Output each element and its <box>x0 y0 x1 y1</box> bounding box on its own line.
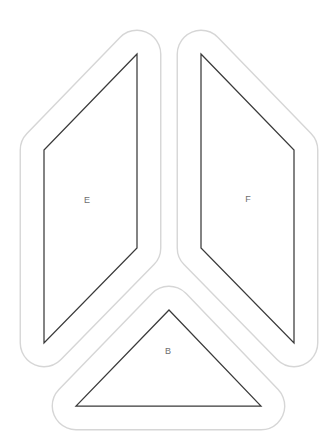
pattern-drawing: EFB <box>0 0 335 444</box>
piece-label-E: E <box>84 195 90 205</box>
pattern-sheet: EFB <box>0 0 335 444</box>
piece-B: B <box>76 310 261 406</box>
piece-label-B: B <box>165 346 171 356</box>
piece-label-F: F <box>245 194 251 204</box>
piece-F: F <box>201 54 294 343</box>
piece-E: E <box>44 54 137 343</box>
